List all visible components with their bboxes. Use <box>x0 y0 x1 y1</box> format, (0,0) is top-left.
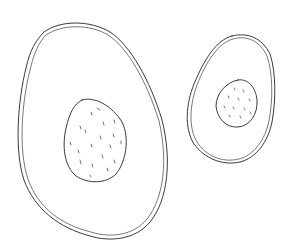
small-avocado-skin-inner <box>191 38 272 160</box>
large-avocado-half <box>18 23 167 239</box>
small-avocado-pit <box>216 80 257 127</box>
small-avocado-skin-outer <box>187 35 275 163</box>
large-pit-speckles <box>70 108 121 177</box>
large-avocado-skin-inner <box>22 27 164 235</box>
large-avocado-skin-outer <box>18 23 167 239</box>
large-avocado-pit <box>64 99 126 182</box>
small-pit-speckles <box>224 88 251 118</box>
small-avocado-half <box>187 35 275 163</box>
avocado-illustration <box>0 0 294 252</box>
